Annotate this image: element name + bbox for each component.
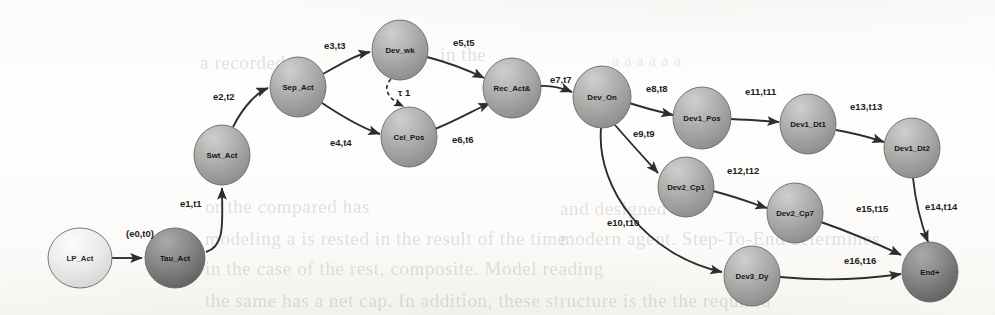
edge-labels-layer: (e0,t0)e1,t1e2,t2e3,t3e4,t4τ 1e5,t5e6,t6…	[126, 37, 958, 266]
node-label-dev_wk: Dev_wk	[385, 46, 415, 55]
node-label-rec_act: Rec_Act&	[494, 84, 531, 93]
node-label-swt_act: Swt_Act	[207, 151, 238, 160]
edge-e3	[323, 52, 370, 74]
node-label-dev1_dt2: Dev1_Dt2	[894, 144, 930, 153]
node-dev1_dt1[interactable]: Dev1_Dt1	[780, 94, 836, 154]
edge-label-e4: e4,t4	[330, 137, 352, 148]
node-label-lp_act: LP_Act	[67, 254, 94, 263]
node-label-dev3_dy: Dev3_Dy	[736, 272, 770, 281]
nodes-layer: LP_ActTau_ActSwt_ActSep_ActDev_wkCel_Pos…	[48, 20, 958, 306]
edge-label-e8: e8,t8	[646, 83, 668, 94]
edge-e6	[435, 103, 490, 129]
edge-e1	[206, 188, 222, 252]
edge-e11	[731, 119, 779, 122]
node-end_plus[interactable]: End+	[902, 242, 958, 302]
edge-label-e9: e9,t9	[633, 128, 655, 139]
edge-label-e15: e15,t15	[856, 203, 889, 214]
node-label-dev2_cp1: Dev2_Cp1	[667, 183, 705, 192]
edge-label-e16: e16,t16	[844, 255, 876, 266]
node-dev1_pos[interactable]: Dev1_Pos	[673, 87, 731, 149]
node-sep_act[interactable]: Sep_Act	[270, 57, 326, 117]
node-label-dev_on: Dev_On	[587, 93, 617, 102]
edge-e13	[836, 130, 884, 142]
edge-label-e2: e2,t2	[213, 91, 235, 102]
edge-label-tau1: τ 1	[398, 87, 411, 98]
edge-label-e10: e10,t10	[607, 217, 639, 228]
node-dev2_cp7[interactable]: Dev2_Cp7	[767, 183, 823, 243]
node-lp_act[interactable]: LP_Act	[48, 228, 112, 288]
node-label-dev2_cp7: Dev2_Cp7	[776, 209, 814, 218]
edge-e4	[322, 103, 380, 134]
node-label-tau_act: Tau_Act	[160, 254, 191, 263]
node-label-sep_act: Sep_Act	[282, 83, 314, 92]
node-swt_act[interactable]: Swt_Act	[194, 125, 250, 185]
node-cel_pos[interactable]: Cel_Pos	[381, 107, 437, 167]
node-label-dev1_dt1: Dev1_Dt1	[790, 120, 826, 129]
edge-label-e3: e3,t3	[324, 40, 346, 51]
edge-label-e7: e7,t7	[550, 74, 572, 85]
node-dev1_dt2[interactable]: Dev1_Dt2	[884, 118, 940, 178]
edge-label-e13: e13,t13	[850, 101, 882, 112]
node-label-end_plus: End+	[920, 268, 940, 277]
edge-e2	[233, 88, 268, 127]
edge-e5	[427, 57, 484, 78]
edge-label-e14: e14,t14	[925, 201, 958, 212]
edge-label-e12: e12,t12	[727, 165, 759, 176]
node-label-cel_pos: Cel_Pos	[394, 133, 425, 142]
edge-label-e0: (e0,t0)	[126, 228, 154, 239]
edge-e12	[713, 191, 767, 208]
node-label-dev1_pos: Dev1_Pos	[683, 114, 721, 123]
edge-e15	[821, 222, 901, 255]
node-rec_act[interactable]: Rec_Act&	[483, 58, 541, 118]
edge-label-e11: e11,t11	[745, 86, 777, 97]
node-dev_on[interactable]: Dev_On	[573, 66, 631, 128]
edge-e16	[780, 274, 901, 279]
state-transition-graph: LP_ActTau_ActSwt_ActSep_ActDev_wkCel_Pos…	[0, 0, 995, 315]
edge-label-e6: e6,t6	[452, 134, 474, 145]
figure-canvas: a recordedin thea a a a a aor the compar…	[0, 0, 995, 315]
node-tau_act[interactable]: Tau_Act	[145, 228, 205, 288]
edge-e7	[540, 86, 572, 92]
edge-e8	[629, 103, 673, 115]
edge-label-e5: e5,t5	[453, 37, 475, 48]
edge-label-e1: e1,t1	[180, 198, 202, 209]
node-dev2_cp1[interactable]: Dev2_Cp1	[658, 157, 714, 217]
node-dev_wk[interactable]: Dev_wk	[372, 20, 428, 80]
node-dev3_dy[interactable]: Dev3_Dy	[724, 246, 780, 306]
